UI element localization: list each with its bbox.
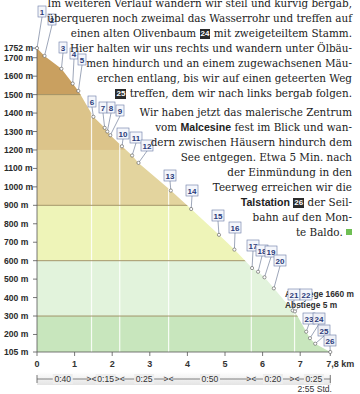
svg-text:><: >< (115, 374, 125, 384)
waypoint-dot-icon (60, 67, 63, 70)
waypoint-11: 11 (130, 132, 142, 157)
waypoint-dot-icon (103, 126, 106, 129)
segment-time: 0:20 (265, 374, 282, 384)
waypoint-dot-icon (35, 47, 38, 50)
y-axis-ticks: 1752 m1700 m1600 m1500 m1400 m1300 m1200… (4, 43, 37, 357)
y-tick-label: 1400 m (4, 108, 34, 118)
y-tick-label: 1200 m (4, 145, 34, 155)
waypoint-label: 23 (305, 315, 314, 324)
x-tick-label: 7,8 km (326, 359, 354, 369)
segment-time: 0:50 (202, 374, 219, 384)
waypoint-label: 11 (132, 134, 141, 143)
waypoint-dot-icon (263, 276, 266, 279)
svg-text:><: >< (86, 374, 96, 384)
altitude-band (37, 95, 337, 150)
x-tick-label: 5 (222, 359, 227, 369)
altitude-band (37, 205, 337, 260)
y-tick-label: 800 m (4, 219, 29, 229)
waypoint-label: 16 (231, 224, 240, 233)
waypoint-dot-icon (190, 207, 193, 210)
svg-text:><: >< (246, 374, 256, 384)
waypoint-dot-icon (71, 82, 74, 85)
waypoint-label: 4 (72, 50, 77, 59)
waypoint-dot-icon (308, 337, 311, 340)
waypoint-label: 15 (214, 212, 223, 221)
waypoint-12: 12 (137, 140, 153, 164)
waypoint-dot-icon (106, 130, 109, 133)
waypoint-dot-icon (131, 154, 134, 157)
y-tick-label: 1500 m (4, 90, 34, 100)
waypoint-dot-icon (250, 266, 253, 269)
altitude-band (37, 316, 337, 352)
waypoint-dot-icon (305, 330, 308, 333)
y-tick-label: 200 m (4, 329, 29, 339)
y-tick-label: 300 m (4, 311, 29, 321)
time-bar (37, 372, 331, 385)
svg-text:><: >< (290, 374, 300, 384)
waypoint-3: 3 (59, 42, 67, 70)
y-tick-label: 1000 m (4, 182, 34, 192)
y-tick-label: 1100 m (4, 163, 33, 173)
y-tick-label: 1600 m (4, 71, 34, 81)
waypoint-dot-icon (137, 161, 140, 164)
waypoint-dot-icon (120, 145, 123, 148)
waypoint-label: 6 (90, 98, 95, 107)
elevation-profile-chart: 1752 m1700 m1600 m1500 m1400 m1300 m1200… (0, 0, 360, 394)
waypoint-label: 25 (320, 327, 329, 336)
waypoint-dot-icon (217, 233, 220, 236)
y-tick-label: 600 m (4, 256, 29, 266)
waypoint-label: 22 (302, 291, 311, 300)
y-tick-label: 700 m (4, 237, 29, 247)
waypoint-label: 8 (109, 104, 114, 113)
x-tick-label: 2 (110, 359, 115, 369)
waypoint-2: 2 (43, 14, 56, 57)
waypoint-label: 3 (61, 44, 66, 53)
waypoint-dot-icon (77, 89, 80, 92)
y-tick-label: 500 m (4, 274, 29, 284)
segment-time: 0:40 (54, 374, 71, 384)
x-axis-ticks: 012345677,8 km (34, 352, 354, 369)
y-tick-label: 1300 m (4, 127, 34, 137)
waypoint-label: 24 (315, 315, 324, 324)
waypoint-label: 1 (40, 8, 45, 17)
y-tick-label: 1752 m (4, 43, 34, 53)
waypoint-dot-icon (233, 248, 236, 251)
waypoint-20: 20 (272, 255, 286, 290)
waypoint-label: 14 (188, 187, 197, 196)
y-tick-label: 400 m (4, 293, 29, 303)
y-tick-label: 1700 m (4, 53, 34, 63)
segment-time: 0:25 (306, 374, 323, 384)
waypoint-label: 26 (326, 337, 335, 346)
waypoint-5: 5 (77, 54, 86, 93)
x-tick-label: 0 (34, 359, 39, 369)
altitude-band (37, 150, 337, 205)
waypoint-label: 12 (143, 142, 152, 151)
x-tick-label: 7 (298, 359, 303, 369)
x-tick-label: 6 (260, 359, 265, 369)
waypoint-label: 5 (80, 56, 85, 65)
waypoint-dot-icon (314, 342, 317, 345)
waypoint-dot-icon (43, 54, 46, 57)
waypoint-1: 1 (35, 6, 46, 50)
waypoint-dot-icon (109, 134, 112, 137)
x-tick-label: 1 (72, 359, 77, 369)
waypoint-label: 9 (118, 107, 123, 116)
waypoint-dot-icon (256, 270, 259, 273)
waypoint-label: 2 (50, 16, 55, 25)
svg-text:><: >< (164, 374, 174, 384)
waypoint-label: 20 (276, 257, 285, 266)
waypoint-label: 21 (290, 291, 299, 300)
waypoint-dot-icon (293, 310, 296, 313)
total-time: 2:55 Std. (298, 384, 332, 394)
x-tick-label: 3 (147, 359, 152, 369)
waypoint-dot-icon (329, 350, 332, 353)
waypoint-dot-icon (92, 115, 95, 118)
segment-time: 0:25 (136, 374, 153, 384)
segment-time: 0:15 (97, 374, 114, 384)
waypoint-label: 7 (101, 104, 106, 113)
y-tick-label: 900 m (4, 200, 29, 210)
y-tick-label: 105 m (4, 347, 29, 357)
waypoint-dot-icon (272, 287, 275, 290)
waypoint-4: 4 (70, 48, 78, 85)
waypoint-label: 10 (119, 130, 128, 139)
